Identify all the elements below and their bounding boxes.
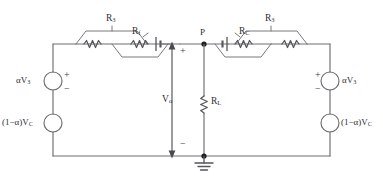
label-left-source-alpha-v3: αV3	[16, 76, 30, 85]
source-right-one-minus-alpha-vc-circle	[321, 114, 339, 132]
label-left-rf: Rf	[132, 27, 141, 37]
label-output-voltage: Vo	[162, 95, 172, 105]
source-left-one-minus-alpha-vc-circle	[44, 114, 62, 132]
label-left-source-plus: +	[64, 70, 70, 80]
label-right-r3: R3	[265, 14, 275, 24]
label-right-source-one-minus-alpha-vc: (1−α)VC	[341, 118, 372, 127]
label-left-source-one-minus-alpha-vc: (1−α)VC	[2, 118, 33, 127]
vo-arrowhead-down	[169, 151, 176, 159]
resistor-load-zigzag	[201, 96, 208, 113]
label-right-source-minus: −	[315, 84, 321, 94]
label-node-p: P	[200, 28, 205, 37]
label-right-source-alpha-v3: αV3	[342, 76, 356, 85]
label-left-r3: R3	[106, 14, 116, 24]
label-left-source-minus: −	[64, 84, 70, 94]
label-right-rc: RC	[239, 27, 250, 37]
label-right-source-plus: +	[315, 70, 321, 80]
source-right-alpha-v3-circle	[321, 72, 339, 90]
vo-arrowhead-up	[169, 42, 176, 50]
label-output-minus: −	[180, 139, 186, 149]
tick-left-rf-label	[143, 33, 148, 37]
circuit-schematic-canvas	[0, 0, 383, 183]
source-left-alpha-v3-circle	[44, 72, 62, 90]
label-output-plus: +	[180, 46, 186, 56]
circuit-diagram: R3 Rf R3 RC P Vo + − RL αV3 + − (1−α)VC …	[0, 0, 383, 183]
label-load-resistor: RL	[211, 97, 221, 107]
